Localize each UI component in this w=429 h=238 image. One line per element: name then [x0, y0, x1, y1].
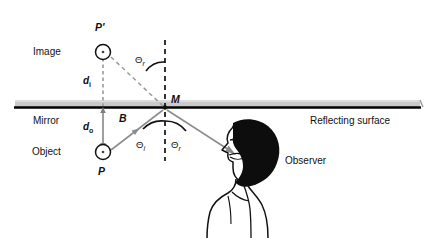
object-distance-label: do	[83, 122, 93, 134]
object-distance-arrow	[100, 107, 106, 149]
observer-illustration	[207, 119, 279, 238]
angle-reflection-upper-subscript: r	[142, 60, 144, 67]
mirror-band-highlight	[15, 100, 420, 102]
mirror-band-end-bevel	[420, 100, 423, 107]
angle-arc-reflection	[165, 121, 186, 131]
angle-reflection-subscript: r	[178, 145, 180, 152]
mirror-point-label: M	[171, 94, 180, 105]
object-distance-subscript: o	[89, 127, 93, 134]
image-distance-label: di	[83, 76, 91, 88]
reflecting-surface-label: Reflecting surface	[310, 116, 390, 126]
image-point-label: P'	[95, 22, 105, 33]
angle-reflection-upper-label: Θr	[135, 55, 145, 67]
mirror-point-marker	[163, 105, 167, 109]
normal-segment-label: B	[119, 113, 127, 124]
angle-incidence-label: Θi	[136, 140, 145, 152]
image-point-marker	[96, 45, 111, 60]
object-point-label: P	[98, 166, 105, 177]
mirror-label: Mirror	[33, 116, 59, 126]
object-label: Object	[32, 147, 61, 157]
mirror-reflection-figure: P' Image P Object M Mirror Reflecting su…	[0, 0, 429, 238]
angle-reflection-label: Θr	[171, 140, 181, 152]
object-point-marker	[96, 145, 111, 160]
angle-incidence-subscript: i	[143, 145, 145, 152]
image-distance-subscript: i	[89, 81, 91, 88]
observer-label: Observer	[285, 156, 326, 166]
image-label: Image	[33, 47, 61, 57]
angle-arc-reflection-upper	[146, 62, 165, 71]
